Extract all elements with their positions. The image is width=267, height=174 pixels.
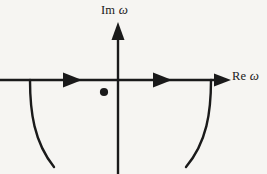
contour-right-arc: [186, 80, 211, 167]
real-axis-label-prefix: Re: [232, 69, 246, 83]
contour-diagram-canvas: [0, 0, 267, 174]
pole-marker: [100, 88, 108, 96]
direction-arrow-right-icon: [153, 73, 172, 88]
contour-left-arc: [30, 80, 54, 167]
imaginary-axis-arrowhead-icon: [112, 22, 125, 40]
real-axis-label-symbol: ω: [250, 68, 259, 83]
direction-arrow-left-icon: [63, 73, 82, 88]
real-axis-arrowhead-icon: [214, 74, 231, 87]
real-axis-label: Re ω: [232, 69, 259, 83]
imaginary-axis-label-prefix: Im: [101, 3, 115, 17]
imaginary-axis-label: Im ω: [101, 3, 128, 17]
complex-plane-contour-figure: Im ω Re ω: [0, 0, 267, 174]
imaginary-axis-label-symbol: ω: [119, 2, 128, 17]
